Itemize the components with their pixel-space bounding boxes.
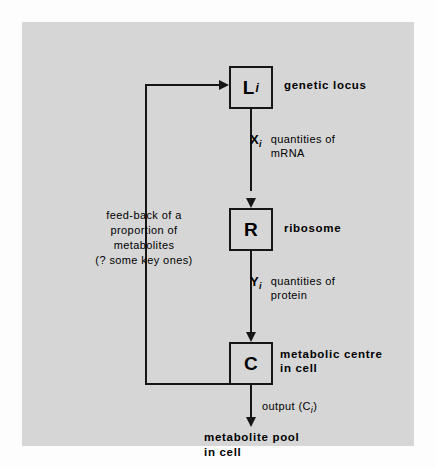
diagram-screenshot: Li R C genetic locus ribosome metabolic …	[0, 0, 436, 468]
node-box-genetic-locus: Li	[229, 66, 273, 109]
output-label-prefix: output (C	[262, 400, 311, 412]
node-symbol-centre: C	[244, 353, 258, 375]
metabolite-pool-label: metabolite pool in cell	[204, 430, 299, 460]
node-box-ribosome: R	[229, 208, 273, 251]
feedback-line-top	[145, 84, 223, 86]
node-label-ribosome: ribosome	[284, 221, 341, 235]
diagram-panel: Li R C genetic locus ribosome metabolic …	[22, 22, 414, 446]
annotation-mrna-quantity: Xi quantities of mRNA	[250, 132, 335, 160]
node-symbol-locus: L	[243, 77, 255, 99]
arrowhead-right-icon-to-locus	[219, 80, 229, 90]
annotation-text-mrna: quantities of mRNA	[271, 132, 336, 160]
node-subscript-locus: i	[255, 81, 259, 95]
arrowhead-down-icon-to-pool	[246, 417, 256, 427]
annotation-text-protein: quantities of protein	[271, 274, 336, 302]
annotation-symbol-x: Xi	[250, 132, 262, 149]
annotation-protein-quantity: Yi quantities of protein	[250, 274, 335, 302]
output-label: output (Ci)	[262, 400, 317, 415]
feedback-caption: feed-back of a proportion of metabolites…	[74, 208, 214, 268]
node-label-genetic-locus: genetic locus	[284, 78, 367, 92]
annotation-symbol-y: Yi	[250, 274, 262, 291]
arrowhead-down-icon-to-centre	[246, 332, 256, 342]
node-label-metabolic-centre: metabolic centre in cell	[280, 347, 383, 375]
connector-centre-to-pool	[250, 385, 252, 419]
output-label-suffix: )	[313, 400, 317, 412]
node-symbol-ribosome: R	[244, 219, 258, 241]
arrowhead-down-icon-to-ribosome	[246, 198, 256, 208]
node-box-metabolic-centre: C	[229, 342, 273, 385]
